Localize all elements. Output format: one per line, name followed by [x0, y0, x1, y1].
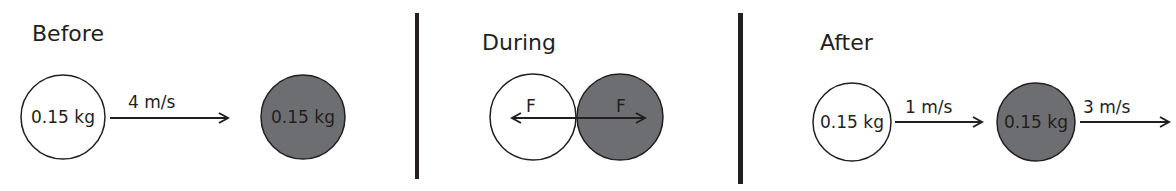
- panel-before: Before 0.15 kg 4 m/s 0.15 kg: [21, 21, 345, 159]
- divider: [415, 13, 419, 179]
- panel-during: During F F: [482, 30, 663, 160]
- panel-title-during: During: [482, 30, 556, 55]
- force-label-right: F: [616, 96, 626, 116]
- mass-label: 0.15 kg: [31, 107, 95, 127]
- divider: [738, 13, 743, 184]
- panel-title-before: Before: [32, 21, 104, 46]
- force-label-left: F: [526, 96, 536, 116]
- panel-after: After 0.15 kg 1 m/s 0.15 kg 3 m/s: [813, 30, 1169, 161]
- mass-label: 0.15 kg: [1004, 112, 1068, 132]
- collision-diagram: Before 0.15 kg 4 m/s 0.15 kg During F F …: [0, 0, 1176, 191]
- velocity-label: 1 m/s: [905, 97, 953, 117]
- panel-title-after: After: [820, 30, 874, 55]
- velocity-label: 4 m/s: [128, 92, 176, 112]
- mass-label: 0.15 kg: [820, 112, 884, 132]
- mass-label: 0.15 kg: [271, 107, 335, 127]
- velocity-label: 3 m/s: [1083, 97, 1131, 117]
